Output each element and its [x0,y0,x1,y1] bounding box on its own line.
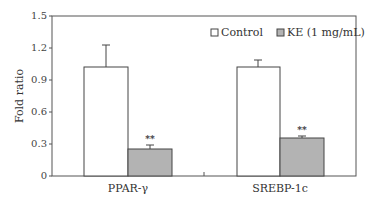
y-tick-1.5: 1.5 [31,10,47,21]
bar-chart: 0 0.3 0.6 0.9 1.2 1.5 Fold ratio ** PPAR… [0,0,373,200]
bar-ke-srebp [280,138,324,176]
group-ppar-gamma: ** PPAR-γ [84,45,172,195]
y-axis-label: Fold ratio [13,69,26,123]
legend: Control KE (1 mg/mL) [211,26,365,39]
group-srebp-1c: ** SREBP-1c [237,60,324,195]
category-label-srebp: SREBP-1c [252,182,308,195]
legend-swatch-ke [277,29,284,36]
legend-label-ke: KE (1 mg/mL) [287,26,365,39]
y-axis: 0 0.3 0.6 0.9 1.2 1.5 Fold ratio [13,10,52,181]
legend-label-control: Control [221,26,263,39]
y-tick-0.6: 0.6 [31,106,47,117]
bar-control-srebp [237,67,280,176]
y-tick-0: 0 [41,170,47,181]
bar-ke-ppar [128,149,172,176]
bar-control-ppar [84,67,128,176]
significance-ppar: ** [145,134,155,144]
y-tick-1.2: 1.2 [31,42,47,53]
significance-srebp: ** [297,125,307,135]
y-tick-0.3: 0.3 [31,138,47,149]
y-tick-0.9: 0.9 [31,74,47,85]
category-label-ppar: PPAR-γ [108,182,149,195]
legend-swatch-control [211,29,218,36]
